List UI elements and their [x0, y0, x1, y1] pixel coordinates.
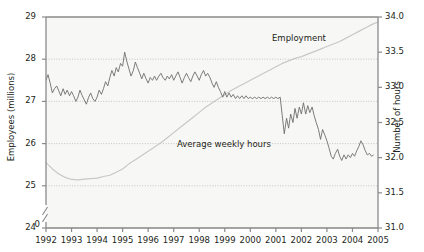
x-axis-tick-2005: 2005: [361, 235, 395, 245]
y-axis-right-tick-32.0: 32.0: [385, 152, 415, 162]
y-axis-left-tick-25: 25: [10, 180, 36, 190]
chart-figure: Employees (millions) Number of hours 242…: [0, 0, 424, 252]
annotation-employment: Employment: [272, 33, 326, 43]
y-axis-left-title: Employees (millions): [6, 57, 16, 177]
plot-background: [46, 17, 378, 228]
y-axis-left-tick-26: 26: [10, 138, 36, 148]
y-axis-right-tick-31.0: 31.0: [385, 222, 415, 232]
y-axis-right-tick-33.0: 33.0: [385, 81, 415, 91]
y-axis-left-tick-29: 29: [10, 11, 36, 21]
y-axis-right-tick-32.5: 32.5: [385, 117, 415, 127]
y-axis-left-tick-28: 28: [10, 53, 36, 63]
y-axis-right-tick-34.0: 34.0: [385, 11, 415, 21]
chart-plot-area: [0, 0, 424, 252]
y-axis-break-zero-label: 0: [14, 219, 40, 229]
y-axis-right-tick-33.5: 33.5: [385, 46, 415, 56]
annotation-average-weekly-hours: Average weekly hours: [177, 139, 271, 149]
y-axis-right-tick-31.5: 31.5: [385, 187, 415, 197]
y-axis-left-tick-27: 27: [10, 95, 36, 105]
